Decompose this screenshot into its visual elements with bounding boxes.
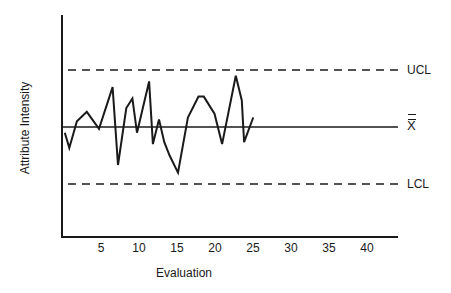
y-axis-label: Attribute Intensity (18, 82, 32, 175)
x-tick-label: 30 (284, 241, 297, 255)
x-tick-label: 35 (322, 241, 335, 255)
x-tick-label: 20 (208, 241, 221, 255)
double-bar-glyph (408, 114, 416, 120)
x-tick-label: 40 (360, 241, 373, 255)
ucl-label: UCL (407, 63, 431, 77)
x-tick-label: 15 (170, 241, 183, 255)
x-tick-label: 10 (132, 241, 145, 255)
data-series-line (65, 76, 253, 173)
lcl-label: LCL (407, 177, 429, 191)
x-axis-label: Evaluation (156, 266, 212, 280)
x-tick-label: 25 (246, 241, 259, 255)
x-tick-label: 5 (98, 241, 105, 255)
grand-mean-label: X (407, 118, 416, 133)
control-chart-plot (0, 0, 451, 293)
